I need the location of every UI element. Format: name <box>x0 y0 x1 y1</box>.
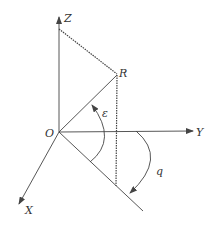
azimuth-arc <box>130 131 151 193</box>
label-epsilon: ε <box>102 107 108 120</box>
x-axis <box>19 132 59 204</box>
label-origin: O <box>45 127 54 140</box>
label-z: Z <box>63 12 72 25</box>
label-x: X <box>24 204 34 217</box>
y-axis <box>59 131 193 132</box>
dashed-r-vertical <box>116 75 117 186</box>
label-q: q <box>156 165 163 178</box>
coordinate-diagram: Z R O Y X ε q <box>0 0 213 228</box>
label-r: R <box>118 67 127 80</box>
dashed-z-to-r <box>59 29 117 74</box>
label-y: Y <box>196 126 205 139</box>
radius-line-OR <box>59 75 117 132</box>
ground-projection-line <box>59 132 143 211</box>
diagram-canvas: Z R O Y X ε q <box>0 0 213 228</box>
